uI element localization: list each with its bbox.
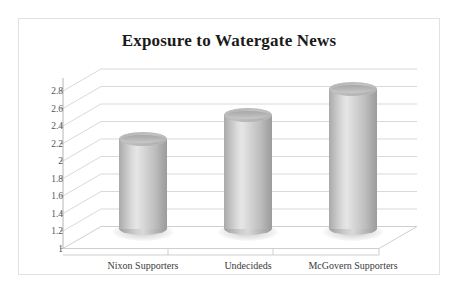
plot-area: 2.8 2.6 2.4 2.2 2 1.8 1.6 1.4 1.2 1 — [19, 19, 441, 276]
x-tick-label-undecideds: Undecideds — [224, 260, 271, 271]
x-axis-category-labels: Nixon Supporters Undecideds McGovern Sup… — [19, 19, 441, 276]
x-tick-label-nixon-supporters: Nixon Supporters — [108, 260, 179, 271]
chart-frame: Exposure to Watergate News — [18, 18, 440, 275]
x-tick-label-mcgovern-supporters: McGovern Supporters — [308, 260, 397, 271]
